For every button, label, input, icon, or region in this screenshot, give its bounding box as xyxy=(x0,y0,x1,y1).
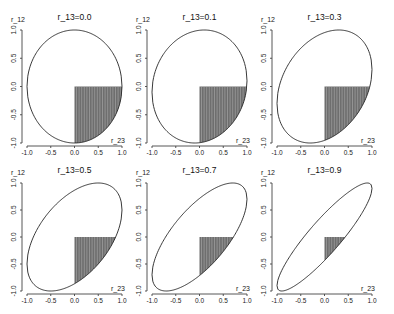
x-axis-label: r_23 xyxy=(236,137,250,145)
x-tick-label: 0.5 xyxy=(344,149,353,156)
y-tick-label: 1.0 xyxy=(10,25,17,34)
x-tick-label: 0.0 xyxy=(195,149,204,156)
x-tick-label: 0.0 xyxy=(70,297,79,304)
y-tick-label: 0.0 xyxy=(135,82,142,91)
panel-5: -1.0-0.50.00.51.0-1.0-0.50.00.51.0r_12r_… xyxy=(135,165,252,304)
y-tick-label: 0.5 xyxy=(135,53,142,62)
y-tick-label: -1.0 xyxy=(10,285,17,297)
y-tick-label: -0.5 xyxy=(135,258,142,270)
y-tick-label: 0.5 xyxy=(260,205,267,214)
y-tick-label: 0.0 xyxy=(10,232,17,241)
panel-3: -1.0-0.50.00.51.0-1.0-0.50.00.51.0r_12r_… xyxy=(260,12,377,156)
shaded-region xyxy=(75,237,116,284)
y-tick-label: -0.5 xyxy=(10,258,17,270)
y-tick-label: 0.0 xyxy=(10,82,17,91)
y-tick-label: -0.5 xyxy=(135,109,142,121)
x-axis-label: r_23 xyxy=(111,137,125,145)
y-tick-label: 0.0 xyxy=(260,82,267,91)
x-tick-label: -0.5 xyxy=(45,149,57,156)
y-tick-label: 1.0 xyxy=(260,178,267,187)
y-tick-label: 1.0 xyxy=(10,178,17,187)
y-tick-label: 1.0 xyxy=(135,25,142,34)
x-axis-label: r_23 xyxy=(361,285,375,293)
y-tick-label: -1.0 xyxy=(135,285,142,297)
x-tick-label: 0.0 xyxy=(195,297,204,304)
y-tick-label: -0.5 xyxy=(260,109,267,121)
y-axis-label: r_12 xyxy=(261,169,275,177)
panel-2: -1.0-0.50.00.51.0-1.0-0.50.00.51.0r_12r_… xyxy=(135,12,252,156)
panel-title: r_13=0.9 xyxy=(308,165,342,175)
x-tick-label: -0.5 xyxy=(295,149,307,156)
y-tick-label: -1.0 xyxy=(260,137,267,149)
y-axis-label: r_12 xyxy=(136,169,150,177)
x-tick-label: 1.0 xyxy=(242,297,251,304)
x-tick-label: 1.0 xyxy=(367,149,376,156)
panel-title: r_13=0.3 xyxy=(308,12,342,22)
x-axis-label: r_23 xyxy=(111,285,125,293)
x-tick-label: 0.0 xyxy=(320,149,329,156)
x-tick-label: 1.0 xyxy=(242,149,251,156)
panel-1: -1.0-0.50.00.51.0-1.0-0.50.00.51.0r_12r_… xyxy=(10,12,127,156)
x-tick-label: 0.0 xyxy=(70,149,79,156)
y-tick-label: 0.0 xyxy=(260,232,267,241)
x-tick-label: -0.5 xyxy=(45,297,57,304)
x-tick-label: 0.5 xyxy=(219,149,228,156)
x-tick-label: -1.0 xyxy=(21,149,33,156)
x-tick-label: 0.5 xyxy=(219,297,228,304)
y-tick-label: -1.0 xyxy=(260,285,267,297)
x-tick-label: 0.0 xyxy=(320,297,329,304)
shaded-region xyxy=(200,237,234,276)
y-tick-label: -0.5 xyxy=(260,258,267,270)
y-tick-label: 0.0 xyxy=(135,232,142,241)
y-tick-label: 0.5 xyxy=(10,53,17,62)
x-axis-label: r_23 xyxy=(236,285,250,293)
y-axis-label: r_12 xyxy=(11,16,25,24)
y-axis-label: r_12 xyxy=(261,16,275,24)
x-tick-label: -1.0 xyxy=(146,297,158,304)
y-tick-label: -1.0 xyxy=(10,137,17,149)
chart-grid: -1.0-0.50.00.51.0-1.0-0.50.00.51.0r_12r_… xyxy=(0,0,394,314)
x-axis-label: r_23 xyxy=(361,137,375,145)
x-tick-label: 1.0 xyxy=(367,297,376,304)
x-tick-label: -1.0 xyxy=(146,149,158,156)
y-tick-label: -1.0 xyxy=(135,137,142,149)
x-tick-label: -1.0 xyxy=(21,297,33,304)
y-tick-label: 0.5 xyxy=(135,205,142,214)
x-tick-label: 1.0 xyxy=(117,149,126,156)
y-tick-label: 1.0 xyxy=(135,178,142,187)
y-axis-label: r_12 xyxy=(11,169,25,177)
panel-6: -1.0-0.50.00.51.0-1.0-0.50.00.51.0r_12r_… xyxy=(260,165,377,304)
panel-title: r_13=0.5 xyxy=(58,165,92,175)
x-tick-label: -0.5 xyxy=(295,297,307,304)
x-tick-label: 1.0 xyxy=(117,297,126,304)
x-tick-label: -0.5 xyxy=(170,297,182,304)
x-tick-label: -1.0 xyxy=(271,297,283,304)
panel-4: -1.0-0.50.00.51.0-1.0-0.50.00.51.0r_12r_… xyxy=(10,165,127,304)
y-tick-label: 1.0 xyxy=(260,25,267,34)
panel-title: r_13=0.7 xyxy=(183,165,217,175)
y-tick-label: -0.5 xyxy=(10,109,17,121)
panel-title: r_13=0.1 xyxy=(183,12,217,22)
y-tick-label: 0.5 xyxy=(10,205,17,214)
x-tick-label: 0.5 xyxy=(94,149,103,156)
y-axis-label: r_12 xyxy=(136,16,150,24)
x-tick-label: -1.0 xyxy=(271,149,283,156)
x-tick-label: -0.5 xyxy=(170,149,182,156)
x-tick-label: 0.5 xyxy=(344,297,353,304)
x-tick-label: 0.5 xyxy=(94,297,103,304)
y-tick-label: 0.5 xyxy=(260,53,267,62)
panel-title: r_13=0.0 xyxy=(58,12,92,22)
